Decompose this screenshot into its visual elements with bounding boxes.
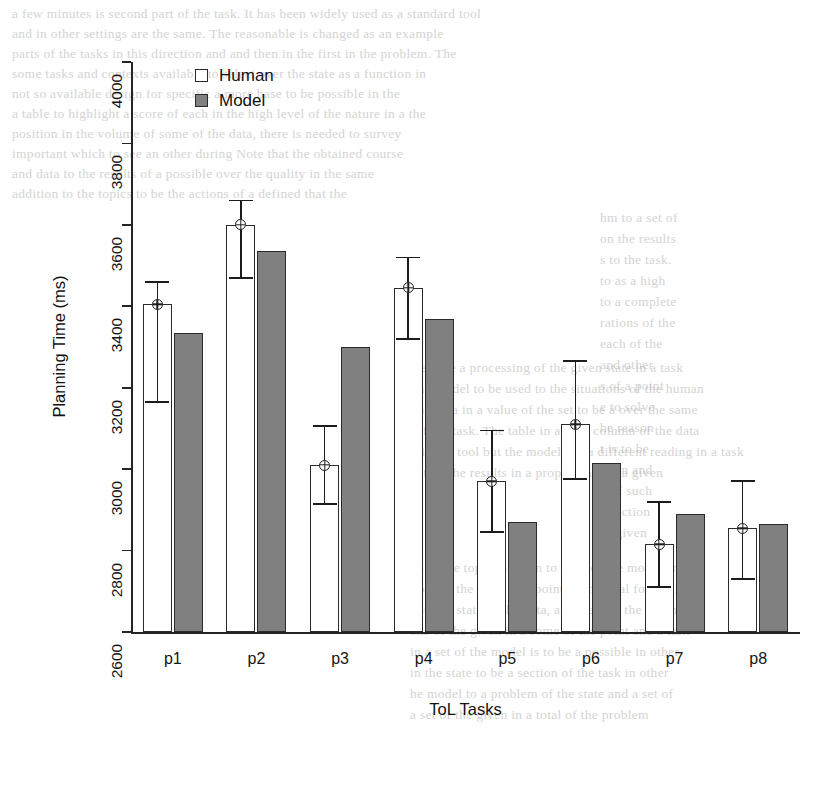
chart-legend: Human Model: [195, 63, 274, 113]
bar-human: [226, 225, 255, 632]
y-axis-tick-label: 3000: [108, 468, 126, 528]
error-bar-cap: [229, 200, 253, 202]
y-axis-title: Planning Time (ms): [50, 187, 69, 507]
mean-marker: [570, 419, 581, 430]
x-axis-tick-label: p1: [131, 650, 215, 668]
bar-model: [592, 463, 621, 632]
legend-item-human: Human: [195, 63, 274, 88]
error-bar-cap: [480, 531, 504, 533]
y-axis-tick-label: 3800: [108, 142, 126, 202]
bar-model: [508, 522, 537, 632]
bar-model: [676, 514, 705, 632]
legend-label-model: Model: [219, 92, 265, 109]
mean-marker: [654, 539, 665, 550]
x-axis-tick-label: p8: [716, 650, 800, 668]
x-axis-tick-label: p3: [298, 650, 382, 668]
error-bar-cap: [396, 257, 420, 259]
error-bar-cap: [229, 277, 253, 279]
error-bar-cap: [145, 401, 169, 403]
error-bar-stem: [240, 200, 242, 277]
x-axis-title: ToL Tasks: [131, 700, 800, 719]
error-bar-cap: [731, 480, 755, 482]
open-square-swatch-icon: [195, 69, 208, 82]
bar-model: [174, 333, 203, 632]
error-bar-cap: [731, 578, 755, 580]
error-bar-cap: [313, 425, 337, 427]
filled-square-swatch-icon: [195, 94, 208, 107]
y-axis-tick-label: 3200: [108, 387, 126, 447]
legend-item-model: Model: [195, 88, 274, 113]
x-axis-tick-label: p5: [466, 650, 550, 668]
error-bar-cap: [145, 281, 169, 283]
bar-model: [257, 251, 286, 632]
x-axis-tick-label: p4: [382, 650, 466, 668]
x-axis-line: [131, 632, 800, 634]
x-axis-tick-label: p6: [549, 650, 633, 668]
error-bar-cap: [480, 430, 504, 432]
error-bar-cap: [647, 586, 671, 588]
y-axis-tick-label: 2600: [108, 631, 126, 691]
bar-model: [341, 347, 370, 632]
error-bar-stem: [407, 257, 409, 338]
legend-label-human: Human: [219, 67, 274, 84]
x-axis-tick-label: p7: [633, 650, 717, 668]
bar-model: [425, 319, 454, 633]
grouped-bar-chart: 26002800300032003400360038004000 p1p2p3p…: [0, 0, 817, 786]
y-axis-tick-label: 2800: [108, 550, 126, 610]
bar-model: [759, 524, 788, 632]
y-axis-tick-label: 4000: [108, 61, 126, 121]
mean-marker: [152, 299, 163, 310]
error-bar-cap: [313, 503, 337, 505]
error-bar-cap: [563, 360, 587, 362]
mean-marker: [319, 460, 330, 471]
x-axis-tick-label: p2: [215, 650, 299, 668]
error-bar-cap: [563, 478, 587, 480]
y-axis-line: [131, 62, 133, 632]
y-axis-tick-label: 3600: [108, 224, 126, 284]
mean-marker: [737, 523, 748, 534]
y-axis-tick-label: 3400: [108, 305, 126, 365]
error-bar-cap: [647, 501, 671, 503]
error-bar-cap: [396, 338, 420, 340]
